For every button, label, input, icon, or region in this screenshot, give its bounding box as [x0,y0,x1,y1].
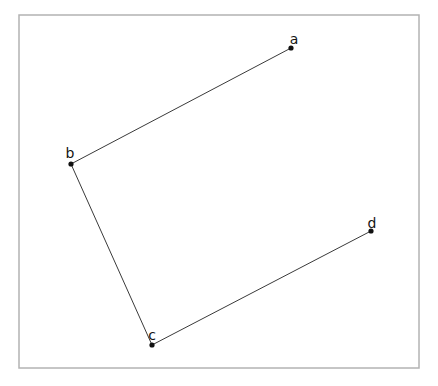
figure-svg: abcd [0,0,438,386]
segment-bc [71,164,152,345]
labels-group: abcd [66,31,377,343]
point-dot-c[interactable] [149,342,154,347]
segment-cd [152,231,371,345]
segment-ab [71,48,291,164]
point-label-c: c [148,327,156,343]
figure-canvas: abcd [0,0,438,386]
point-label-b: b [66,145,75,161]
plot-border [19,15,419,368]
point-label-a: a [290,31,299,47]
point-label-d: d [368,215,377,231]
dots-group [68,45,373,347]
segments-group [71,48,371,345]
point-dot-b[interactable] [68,161,73,166]
